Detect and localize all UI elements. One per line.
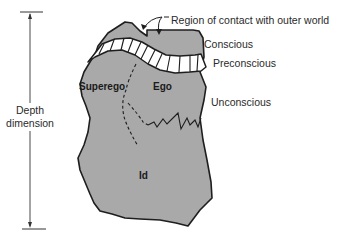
ego-label: Ego	[153, 81, 172, 92]
depth-label: Depth	[16, 104, 44, 116]
arrow-up-icon	[28, 13, 32, 19]
arrow-down-icon	[28, 222, 32, 228]
preconscious-label: Preconscious	[213, 57, 276, 69]
psyche-diagram: Depth dimension Region of contact with o…	[0, 0, 341, 238]
dimension-label: dimension	[6, 117, 54, 129]
unconscious-label: Unconscious	[211, 96, 271, 108]
conscious-label: Conscious	[204, 38, 253, 50]
superego-label: Superego	[79, 81, 125, 92]
id-label: Id	[139, 170, 148, 181]
contact-label: Region of contact with outer world	[171, 14, 329, 26]
